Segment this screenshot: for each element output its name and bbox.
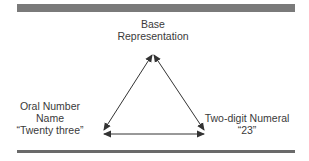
arrow-top-left [104, 55, 152, 130]
bottom-rule [17, 150, 295, 153]
arrow-top-right [154, 55, 204, 130]
triangle-arrows [0, 0, 309, 161]
